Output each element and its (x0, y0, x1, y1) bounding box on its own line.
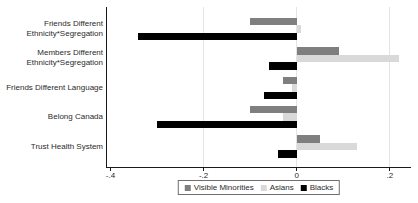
legend-swatch-visible-minorities (185, 185, 191, 191)
bar-visible-minorities-belong-canada (250, 106, 297, 114)
bar-blacks-members-different-ethnicity-segregation (269, 62, 297, 70)
legend-swatch-asians (261, 185, 267, 191)
bar-visible-minorities-trust-health-system (297, 135, 320, 143)
bar-asians-trust-health-system (297, 143, 358, 151)
legend-item-visible-minorities: Visible Minorities (185, 183, 254, 192)
x-ticklabel-2: .2 (386, 171, 393, 180)
bar-asians-friends-different-language (292, 84, 297, 92)
category-label-members-different-ethnicity-segregation: Members DifferentEthnicity*Segregation (0, 49, 103, 68)
legend: Visible MinoritiesAsiansBlacks (178, 180, 340, 195)
x-ticklabel-2: -.2 (199, 171, 208, 180)
x-ticklabel-4: -.4 (106, 171, 115, 180)
bar-asians-members-different-ethnicity-segregation (297, 55, 399, 63)
legend-label-asians: Asians (270, 183, 294, 192)
bar-visible-minorities-members-different-ethnicity-segregation (297, 47, 339, 55)
x-ticklabel-0: 0 (294, 171, 298, 180)
x-axis-line (106, 167, 411, 168)
bar-blacks-trust-health-system (278, 150, 297, 158)
gridline-0.2 (389, 7, 390, 167)
bar-asians-friends-different-ethnicity-segregation (297, 25, 302, 33)
bar-asians-belong-canada (283, 113, 297, 121)
bar-blacks-friends-different-language (264, 92, 297, 100)
category-label-belong-canada: Belong Canada (0, 112, 103, 122)
bar-blacks-belong-canada (157, 121, 297, 129)
category-label-friends-different-ethnicity-segregation: Friends DifferentEthnicity*Segregation (0, 19, 103, 38)
category-label-friends-different-language: Friends Different Language (0, 83, 103, 93)
legend-item-blacks: Blacks (301, 183, 334, 192)
bar-blacks-friends-different-ethnicity-segregation (138, 33, 296, 41)
plot-area (107, 7, 410, 167)
bar-visible-minorities-friends-different-ethnicity-segregation (250, 18, 297, 26)
legend-swatch-blacks (301, 185, 307, 191)
legend-label-visible-minorities: Visible Minorities (194, 183, 254, 192)
gridline--0.2 (203, 7, 204, 167)
legend-item-asians: Asians (261, 183, 294, 192)
bar-visible-minorities-friends-different-language (283, 77, 297, 85)
bar-chart-figure: Friends DifferentEthnicity*SegregationMe… (0, 0, 418, 203)
y-axis-line (106, 7, 107, 168)
category-label-trust-health-system: Trust Health System (0, 142, 103, 152)
legend-label-blacks: Blacks (310, 183, 334, 192)
category-axis-labels: Friends DifferentEthnicity*SegregationMe… (0, 0, 103, 203)
